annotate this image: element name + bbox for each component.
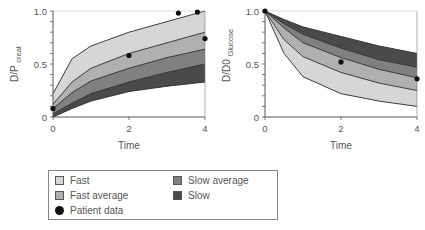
legend-label: Slow — [188, 190, 210, 201]
y-tick-label: 0 — [42, 112, 47, 123]
x-tick-label: 4 — [202, 123, 207, 134]
legend-label: Fast — [70, 175, 89, 186]
legend-item-slow: Slow — [173, 190, 210, 201]
patient-data-point — [262, 8, 267, 13]
patient-data-point — [195, 9, 200, 14]
left-chart: 00.51.0024TimeD/P creat — [9, 6, 208, 152]
patient-data-point — [50, 106, 55, 111]
patient-data-dot-icon — [55, 206, 64, 215]
x-axis-title: Time — [118, 140, 140, 151]
legend-item-fast: Fast — [55, 175, 89, 186]
patient-data-point — [202, 36, 207, 41]
y-tick-label: 0 — [254, 112, 259, 123]
legend-label: Slow average — [188, 175, 249, 186]
x-tick-label: 2 — [338, 123, 343, 134]
y-tick-label: 0.5 — [246, 59, 259, 70]
patient-data-point — [338, 59, 343, 64]
y-tick-label: 1.0 — [34, 6, 47, 17]
x-tick-label: 0 — [50, 123, 55, 134]
x-tick-label: 2 — [126, 123, 131, 134]
patient-data-point — [126, 53, 131, 58]
slow-swatch-icon — [173, 191, 182, 200]
legend-item-fast-average: Fast average — [55, 190, 128, 201]
legend-label: Fast average — [70, 190, 128, 201]
x-tick-label: 0 — [262, 123, 267, 134]
patient-data-point — [414, 76, 419, 81]
x-axis-title: Time — [330, 140, 352, 151]
right-chart: 00.51.0024TimeD/D0 Glucose — [221, 6, 420, 152]
legend-label: Patient data — [70, 205, 123, 216]
slow-average-swatch-icon — [173, 176, 182, 185]
legend-item-slow-average: Slow average — [173, 175, 249, 186]
legend-item-patient-data: Patient data — [55, 205, 123, 216]
y-axis-title: D/D0 Glucose — [221, 29, 235, 82]
y-tick-label: 1.0 — [246, 6, 259, 17]
x-tick-label: 4 — [414, 123, 419, 134]
legend: Fast Fast average Patient data Slow aver… — [48, 170, 278, 220]
y-tick-label: 0.5 — [34, 59, 47, 70]
fast-average-swatch-icon — [55, 191, 64, 200]
patient-data-point — [176, 11, 181, 16]
fast-swatch-icon — [55, 176, 64, 185]
y-axis-title: D/P creat — [9, 45, 23, 82]
